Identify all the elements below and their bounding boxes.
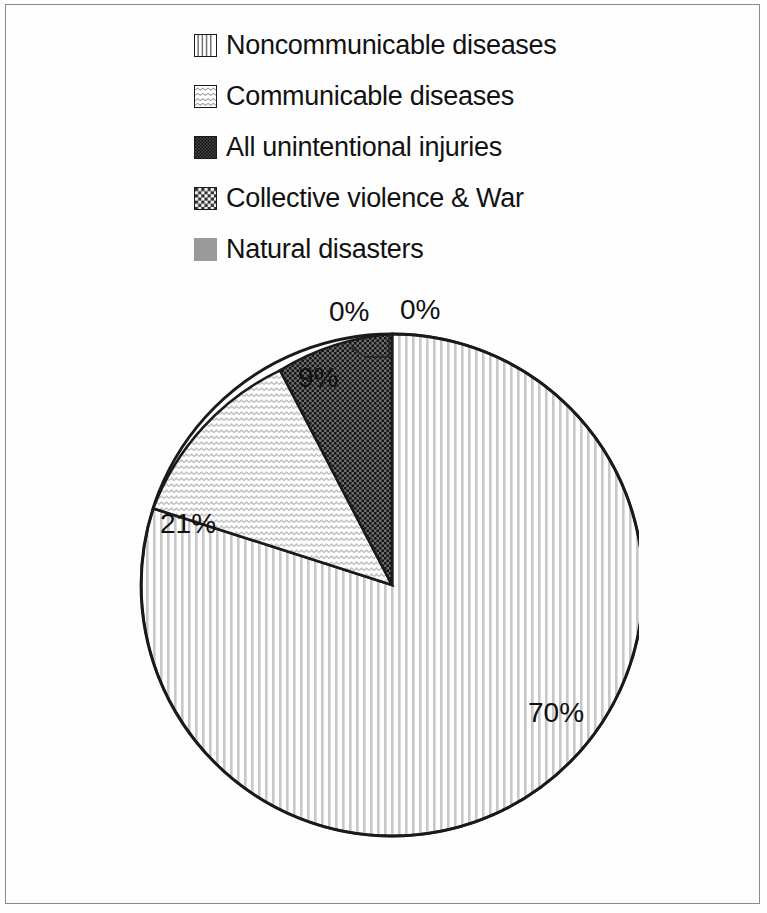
legend-item-communicable-diseases: Communicable diseases xyxy=(194,71,594,122)
legend-swatch-communicable-diseases-icon xyxy=(194,85,217,108)
legend-swatch-noncommunicable-diseases-icon xyxy=(194,34,217,57)
pie-chart-figure: Noncommunicable diseases Communicable di… xyxy=(0,0,767,913)
chart-legend: Noncommunicable diseases Communicable di… xyxy=(194,20,594,275)
legend-label-noncommunicable-diseases: Noncommunicable diseases xyxy=(226,32,556,59)
data-label-collective-violence-and-war: 0% xyxy=(329,298,369,326)
legend-label-natural-disasters: Natural disasters xyxy=(226,236,423,263)
pie-svg xyxy=(139,332,639,840)
data-label-natural-disasters: 0% xyxy=(400,296,440,324)
data-label-all-unintentional-injuries: 9% xyxy=(298,364,338,392)
legend-item-natural-disasters: Natural disasters xyxy=(194,224,594,275)
legend-swatch-all-unintentional-injuries-icon xyxy=(194,136,217,159)
legend-label-all-unintentional-injuries: All unintentional injuries xyxy=(226,134,502,161)
legend-item-all-unintentional-injuries: All unintentional injuries xyxy=(194,122,594,173)
data-label-noncommunicable-diseases: 70% xyxy=(528,699,584,727)
legend-label-communicable-diseases: Communicable diseases xyxy=(226,83,514,110)
legend-item-collective-violence-and-war: Collective violence & War xyxy=(194,173,594,224)
legend-item-noncommunicable-diseases: Noncommunicable diseases xyxy=(194,20,594,71)
legend-swatch-collective-violence-and-war-icon xyxy=(194,187,217,210)
pie-chart-plot-area: 0% 0% 9% 21% 70% xyxy=(139,332,639,840)
legend-swatch-natural-disasters-icon xyxy=(194,238,217,261)
data-label-communicable-diseases: 21% xyxy=(160,510,216,538)
legend-label-collective-violence-and-war: Collective violence & War xyxy=(226,185,524,212)
